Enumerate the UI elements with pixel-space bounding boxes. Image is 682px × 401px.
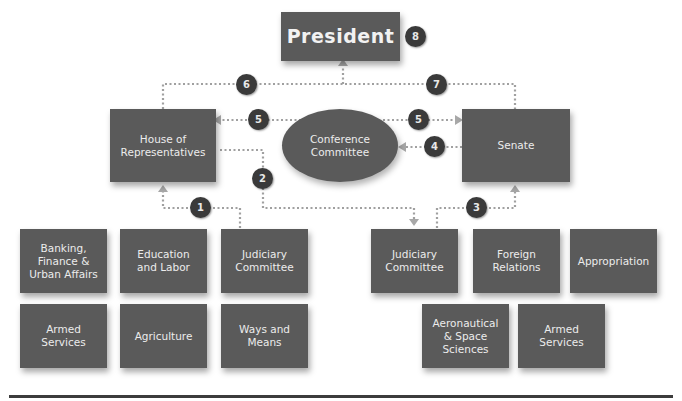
senate-committee-judiciary: Judiciary Committee: [371, 229, 458, 293]
senate-committee-appropriation: Appropriation: [570, 229, 657, 293]
house-box: House of Representatives: [110, 109, 216, 182]
house-committee-agriculture: Agriculture: [120, 304, 207, 368]
step-badge-7: 7: [426, 74, 447, 95]
senate-committee-armed-services: Armed Services: [518, 304, 605, 368]
step-badge-3: 3: [466, 197, 487, 218]
step-badge-5-left: 5: [248, 109, 269, 130]
step-badge-4: 4: [424, 136, 445, 157]
president-box: President: [281, 12, 400, 61]
step-badge-1: 1: [190, 197, 211, 218]
senate-committee-foreign-relations: Foreign Relations: [473, 229, 560, 293]
house-committee-judiciary: Judiciary Committee: [221, 229, 308, 293]
senate-label: Senate: [498, 139, 535, 152]
president-label: President: [287, 30, 395, 43]
conference-label: Conference Committee: [310, 133, 370, 159]
house-label: House of Representatives: [121, 133, 206, 159]
step-badge-5-right: 5: [408, 109, 429, 130]
step-badge-8: 8: [405, 26, 426, 47]
conference-committee-ellipse: Conference Committee: [282, 109, 398, 182]
bottom-rule: [9, 395, 673, 398]
senate-box: Senate: [462, 109, 570, 182]
house-committee-education: Education and Labor: [120, 229, 207, 293]
house-committee-ways-means: Ways and Means: [221, 304, 308, 368]
house-committee-armed-services: Armed Services: [20, 304, 107, 368]
senate-committee-aeronautical: Aeronautical & Space Sciences: [422, 304, 509, 368]
step-badge-2: 2: [252, 168, 273, 189]
house-committee-banking: Banking, Finance & Urban Affairs: [20, 229, 107, 293]
step-badge-6: 6: [236, 74, 257, 95]
